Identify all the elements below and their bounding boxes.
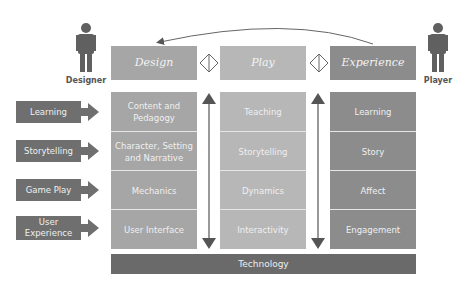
arrow-right-icon	[80, 219, 99, 237]
designer-actor: Designer	[62, 22, 110, 85]
left-label-storytelling: Storytelling	[16, 140, 81, 162]
double-arrow-vertical-icon	[309, 92, 327, 250]
player-label: Player	[414, 76, 462, 85]
arrow-right-icon	[80, 181, 99, 199]
play-cell-storytelling: Storytelling	[220, 131, 306, 171]
diamond-icon	[309, 53, 329, 73]
experience-cell-learning: Learning	[330, 92, 416, 131]
experience-cell-engagement: Engagement	[330, 209, 416, 250]
person-icon	[62, 22, 110, 74]
experience-cell-story: Story	[330, 131, 416, 171]
design-cell-user-interface: User Interface	[111, 209, 197, 250]
header-experience: Experience	[330, 46, 416, 80]
header-design: Design	[111, 46, 197, 80]
left-label-learning: Learning	[16, 101, 81, 123]
designer-label: Designer	[62, 76, 110, 85]
design-cell-content-pedagogy: Content and Pedagogy	[111, 92, 197, 131]
play-cell-teaching: Teaching	[220, 92, 306, 131]
left-arrows	[80, 95, 102, 245]
double-arrow-vertical-icon	[200, 92, 218, 250]
left-label-user-experience: User Experience	[16, 216, 81, 240]
column-play: Teaching Storytelling Dynamics Interacti…	[220, 92, 306, 249]
header-play: Play	[220, 46, 306, 80]
column-experience: Learning Story Affect Engagement	[330, 92, 416, 249]
play-cell-dynamics: Dynamics	[220, 170, 306, 210]
player-actor: Player	[414, 22, 462, 85]
arrow-right-icon	[80, 142, 99, 160]
left-label-game-play: Game Play	[16, 179, 81, 201]
person-icon	[414, 22, 462, 74]
design-cell-character-setting-narrative: Character, Setting and Narrative	[111, 131, 197, 171]
experience-cell-affect: Affect	[330, 170, 416, 210]
column-design: Content and Pedagogy Character, Setting …	[111, 92, 197, 249]
technology-bar: Technology	[111, 254, 416, 274]
diamond-icon	[199, 53, 219, 73]
arrow-right-icon	[80, 103, 99, 121]
design-cell-mechanics: Mechanics	[111, 170, 197, 210]
play-cell-interactivity: Interactivity	[220, 209, 306, 250]
